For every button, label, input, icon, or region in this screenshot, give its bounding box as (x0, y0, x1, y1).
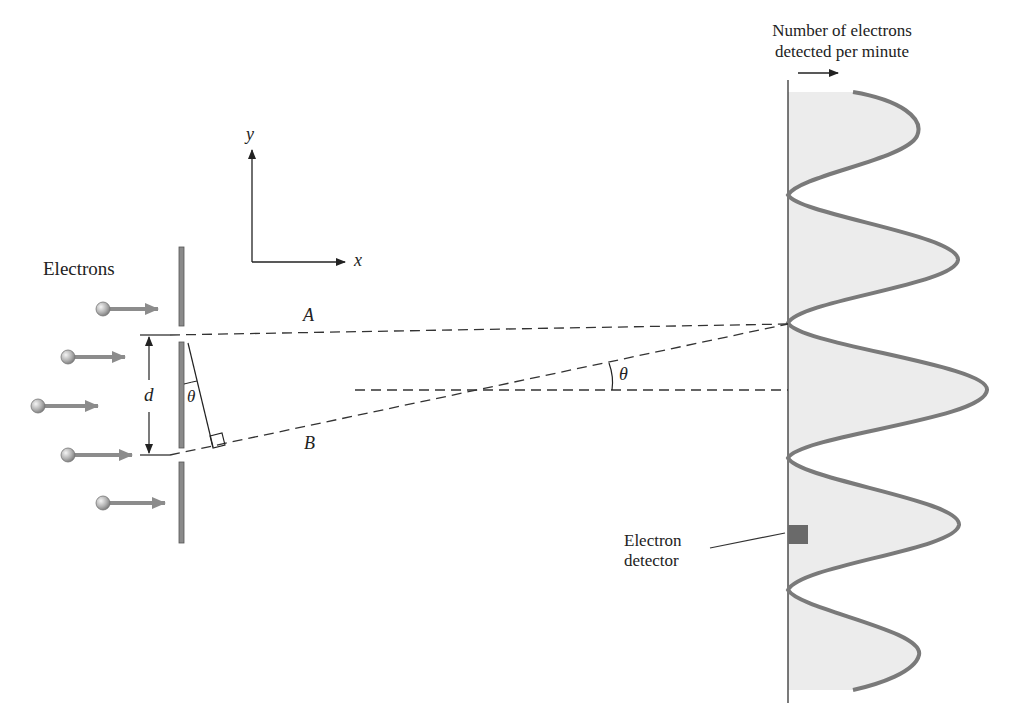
path-b-label: B (304, 433, 315, 454)
small-angle-arc (184, 381, 197, 384)
barrier-bottom (179, 462, 184, 543)
large-theta-label: θ (619, 364, 628, 385)
detector-label: Electron detector (624, 531, 682, 571)
graph-title: Number of electrons detected per minute (752, 20, 932, 62)
electron-detector (788, 525, 808, 544)
detector-label-line1: Electron (624, 531, 682, 551)
double-slit-diagram (0, 0, 1024, 724)
small-theta-label: θ (187, 387, 195, 407)
path-a-label: A (303, 305, 314, 326)
electron-beam (31, 302, 165, 510)
barrier-middle (179, 342, 184, 448)
barrier-top (179, 247, 184, 326)
detector-pointer-line (710, 533, 785, 548)
x-axis-label: x (354, 250, 362, 271)
intensity-shading (788, 92, 987, 690)
detector-label-line2: detector (624, 551, 682, 571)
graph-title-line1: Number of electrons (752, 20, 932, 41)
y-axis-label: y (246, 124, 254, 145)
path-a-line (170, 324, 788, 335)
right-angle-mark (210, 433, 225, 448)
graph-title-line2: detected per minute (752, 41, 932, 62)
electrons-label: Electrons (43, 258, 115, 280)
slit-separation-label: d (144, 384, 154, 406)
large-angle-arc (609, 363, 613, 390)
